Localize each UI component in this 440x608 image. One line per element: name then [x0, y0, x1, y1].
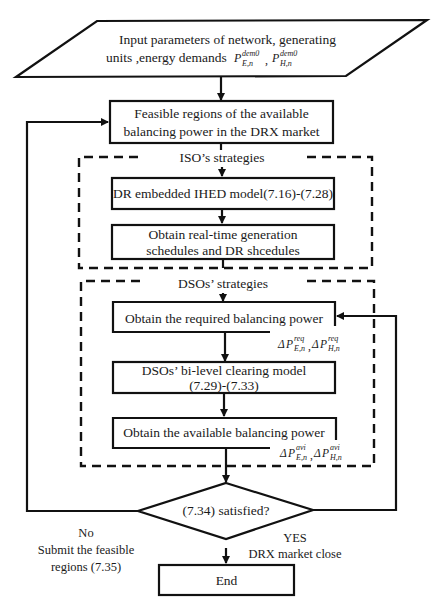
svg-text:avi: avi: [330, 443, 340, 452]
svg-text:P: P: [319, 338, 327, 350]
svg-text:dem0: dem0: [280, 49, 297, 58]
available-power-node: Obtain the available balancing power Δ P…: [113, 418, 342, 462]
dr-model-text: DR embedded IHED model(7.16)-(7.28): [113, 186, 333, 201]
required-power-node: Obtain the required balancing power Δ P …: [113, 302, 340, 353]
required-power-text: Obtain the required balancing power: [125, 311, 323, 326]
svg-text:E,n: E,n: [295, 453, 307, 462]
end-node: End: [159, 565, 294, 595]
end-text: End: [216, 573, 238, 588]
svg-text:req: req: [328, 334, 338, 343]
required-power-annotation: Δ P req E,n , Δ P req H,n: [277, 334, 340, 353]
svg-text:req: req: [294, 334, 304, 343]
svg-text:Δ: Δ: [311, 338, 319, 350]
svg-text:P: P: [287, 447, 295, 459]
svg-text:Δ: Δ: [313, 447, 321, 459]
svg-text:,: ,: [308, 340, 311, 353]
available-power-annotation: Δ P avi E,n , Δ P avi H,n: [279, 443, 342, 462]
obtain-schedules-node: Obtain real-time generation schedules an…: [112, 225, 334, 259]
feasible-text-line2: balancing power in the DRX market: [123, 124, 319, 139]
decision-text: (7.34) satisfied?: [183, 503, 270, 518]
yes-label: YES DRX market close: [248, 531, 341, 561]
schedules-text-line1: Obtain real-time generation: [148, 227, 297, 242]
svg-text:Δ: Δ: [279, 447, 287, 459]
bilevel-model-node: DSOs’ bi-level clearing model (7.29)-(7.…: [113, 362, 335, 393]
schedules-text-line2: schedules and DR shcedules: [146, 243, 299, 258]
flowchart: Input parameters of network, generating …: [0, 0, 440, 608]
svg-text:,: ,: [265, 53, 268, 67]
svg-text:Submit the feasible: Submit the feasible: [38, 543, 135, 557]
svg-text:No: No: [78, 526, 93, 540]
available-power-text: Obtain the available balancing power: [123, 425, 325, 440]
svg-text:regions (7.35): regions (7.35): [51, 560, 121, 574]
svg-text:E,n: E,n: [293, 344, 305, 353]
no-label: No Submit the feasible regions (7.35): [38, 526, 135, 574]
svg-text:avi: avi: [296, 443, 306, 452]
svg-text:P: P: [233, 51, 242, 65]
bilevel-text-line2: (7.29)-(7.33): [189, 378, 259, 393]
svg-text:H,n: H,n: [327, 344, 340, 353]
svg-text:DRX market close: DRX market close: [248, 547, 341, 561]
feasible-text-line1: Feasible regions of the available: [134, 106, 309, 121]
svg-text:Δ: Δ: [277, 338, 285, 350]
iso-strategies-label: ISO’s strategies: [179, 150, 264, 165]
svg-text:dem0: dem0: [242, 49, 259, 58]
svg-text:P: P: [285, 338, 293, 350]
feasible-regions-node: Feasible regions of the available balanc…: [110, 101, 333, 143]
input-parameters-node: Input parameters of network, generating …: [16, 20, 427, 77]
svg-text:E,n: E,n: [241, 59, 253, 68]
bilevel-text-line1: DSOs’ bi-level clearing model: [142, 363, 307, 378]
input-text-line1: Input parameters of network, generating: [119, 32, 336, 47]
svg-text:P: P: [321, 447, 329, 459]
svg-text:YES: YES: [283, 531, 307, 545]
dso-strategies-label: DSOs’ strategies: [178, 276, 268, 291]
dr-model-node: DR embedded IHED model(7.16)-(7.28): [112, 178, 334, 209]
svg-text:H,n: H,n: [279, 59, 292, 68]
svg-text:H,n: H,n: [329, 453, 342, 462]
svg-text:,: ,: [310, 449, 313, 462]
input-text-line2: units ,energy demands: [106, 50, 227, 65]
svg-text:P: P: [271, 51, 280, 65]
